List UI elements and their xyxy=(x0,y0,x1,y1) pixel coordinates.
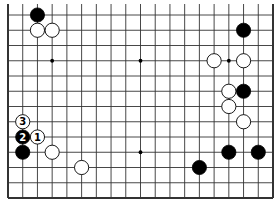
black-stone xyxy=(236,23,250,37)
black-stone xyxy=(16,145,30,159)
black-stone xyxy=(192,160,206,174)
white-stone xyxy=(207,54,221,68)
star-point xyxy=(227,59,231,63)
go-board: 321 xyxy=(0,0,280,210)
white-stone xyxy=(222,84,236,98)
white-stone: 1 xyxy=(30,130,44,144)
black-stone xyxy=(222,145,236,159)
move-number-label: 1 xyxy=(34,132,41,143)
black-stone xyxy=(236,84,250,98)
white-stone xyxy=(236,54,250,68)
white-stone xyxy=(30,23,44,37)
white-stone xyxy=(45,23,59,37)
white-stone: 3 xyxy=(16,115,30,129)
star-point xyxy=(139,150,143,154)
black-stone: 2 xyxy=(16,130,30,144)
move-number-label: 3 xyxy=(19,116,26,127)
star-point xyxy=(139,59,143,63)
black-stone xyxy=(30,8,44,22)
white-stone xyxy=(75,160,89,174)
white-stone xyxy=(222,99,236,113)
white-stone xyxy=(236,115,250,129)
move-number-label: 2 xyxy=(19,132,26,143)
white-stone xyxy=(45,145,59,159)
star-point xyxy=(50,59,54,63)
black-stone xyxy=(251,145,265,159)
